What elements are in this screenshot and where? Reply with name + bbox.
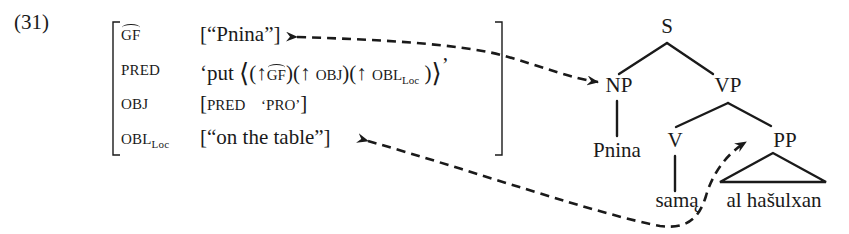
arg1-open: (↑ [249,61,267,85]
tree-node-vp: VP [715,73,742,98]
attr-gf: GF [121,27,141,44]
bracket-close: ] [273,22,280,46]
bracket-close: ] [300,91,307,115]
tree-node-v: V [667,128,682,153]
pred-put: ‘put [200,61,234,85]
tree-leaf-al-hasulxan: al hašulxan [726,188,821,213]
tree-node-s: S [661,14,673,39]
bracket-open: [ [200,125,207,149]
tree-node-pp: PP [773,128,796,153]
tree-leaf-sama: samą [655,188,698,213]
arg1-close: ) [286,61,293,85]
avm-left-bracket [113,22,120,155]
arg1-gf: GF [267,67,286,84]
arg3: (↑ OBLLoc ) [349,61,431,85]
tree-leaf-pnina: Pnina [593,138,641,163]
bracket-open: [ [200,22,207,46]
bracket-close: ] [324,125,331,149]
arg3-sub: Loc [402,74,419,86]
angle-close: ⟩ [431,59,441,88]
attr-pred: PRED [121,62,160,79]
attr-obl-sub: Loc [152,138,170,150]
angle-open: ⟨ [239,59,249,88]
bracket-open: [ [200,91,207,115]
value-obj: [PRED ‘PRO’] [200,91,307,116]
value-pred: ‘put ⟨(↑GF)(↑ OBJ)(↑ OBLLoc )⟩’ [200,56,449,87]
obj-pred: PRED [207,97,245,113]
value-gf-text: “Pnina” [207,22,273,46]
attr-obj: OBJ [121,96,148,113]
pred-quote-close: ’ [442,53,449,77]
tree-node-np: NP [606,73,633,98]
value-obl-text: “on the table” [207,125,324,149]
arg2: (↑ OBJ) [293,61,349,85]
link-obl-pp [368,141,746,227]
avm-right-bracket [495,22,502,155]
attr-obl: OBLLoc [121,131,169,150]
tree-edges [617,43,826,191]
attr-obl-label: OBL [121,131,152,147]
attr-gf-label: GF [121,27,141,44]
obj-pro: ‘PRO’ [261,97,300,113]
value-gf: [“Pnina”] [200,22,280,47]
value-obl: [“on the table”] [200,125,331,150]
